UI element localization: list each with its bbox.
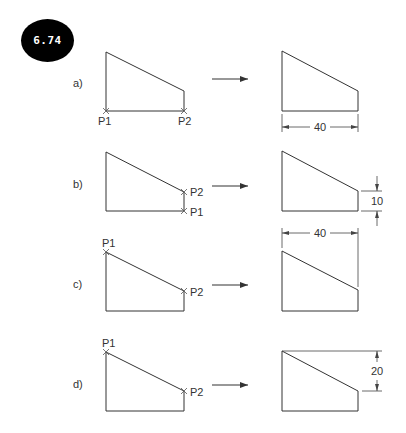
result-shape: [282, 351, 382, 411]
point-label: P2: [190, 386, 203, 398]
result-shape: [282, 151, 358, 211]
row-b: b) P2 P1 10: [73, 151, 383, 226]
source-shape: [106, 252, 184, 311]
point-label: P2: [190, 286, 203, 298]
point-label: P2: [178, 115, 191, 127]
cad-diagram: a) P1 P2 40 b): [0, 0, 406, 433]
point-label: P2: [190, 186, 203, 198]
figure-number: 6.74: [33, 34, 62, 47]
point-label: P1: [98, 115, 111, 127]
result-shape: [282, 51, 358, 111]
row-label: d): [73, 378, 83, 390]
result-shape: [282, 251, 358, 311]
figure-number-badge: 6.74: [21, 19, 74, 62]
point-label: P1: [190, 206, 203, 218]
source-shape: [106, 352, 184, 411]
dimension-value: 10: [371, 195, 383, 207]
dimension-value: 40: [314, 227, 326, 239]
source-shape: [106, 152, 184, 211]
row-a: a) P1 P2 40: [73, 51, 358, 133]
point-label: P1: [102, 337, 115, 349]
row-label: b): [73, 178, 83, 190]
point-label: P1: [102, 237, 115, 249]
row-c: c) P1 P2 40: [73, 227, 358, 311]
figure-canvas: 6.74 a) P1 P2: [0, 0, 406, 433]
row-label: c): [73, 278, 82, 290]
dimension-value: 40: [314, 121, 326, 133]
dimension-value: 20: [371, 365, 383, 377]
row-label: a): [73, 77, 83, 89]
source-shape: [106, 52, 184, 111]
row-d: d) P1 P2 20: [73, 337, 383, 411]
